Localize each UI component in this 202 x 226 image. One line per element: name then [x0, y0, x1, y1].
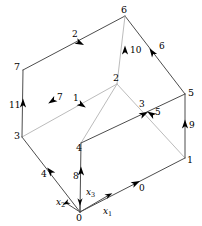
axis-label-x3: x3: [86, 188, 95, 197]
edge-line-7: [22, 84, 117, 137]
edge-label-7: 7: [57, 93, 63, 102]
arrow-heads: [20, 38, 188, 207]
edge-label-1: 1: [73, 94, 79, 103]
edge-label-5: 5: [155, 108, 161, 117]
edge-label-6: 6: [159, 42, 165, 51]
axis-line-x2: [66, 203, 80, 212]
vertex-label-1: 1: [187, 155, 193, 165]
edge-arrow-11: [20, 99, 26, 108]
vertex-label-7: 7: [14, 62, 20, 72]
edge-label-3: 3: [139, 100, 145, 109]
edge-label-11: 11: [9, 101, 20, 110]
edge-label-4: 4: [41, 170, 47, 179]
edge-label-9: 9: [189, 121, 195, 130]
vertex-label-5: 5: [188, 88, 194, 98]
edge-label-8: 8: [73, 172, 79, 181]
axis-label-subscript: 3: [91, 191, 95, 199]
axis-label-subscript: 1: [108, 210, 112, 218]
axis-label-x1: x1: [103, 207, 112, 216]
vertex-label-2: 2: [113, 73, 119, 83]
vertex-label-4: 4: [76, 143, 82, 153]
edge-arrow-7: [47, 96, 58, 106]
edge-line-2: [23, 16, 125, 70]
axis-label-x2: x2: [56, 198, 65, 207]
vertex-label-6: 6: [121, 5, 127, 15]
vertex-label-3: 3: [14, 131, 20, 141]
edge-label-0: 0: [139, 184, 145, 193]
vertex-label-0: 0: [76, 213, 82, 223]
edge-label-2: 2: [72, 30, 78, 39]
cube-diagram: 01234567 01234567891011 x1x2x3: [0, 0, 202, 226]
cube-graphics: [0, 0, 202, 226]
edge-line-6: [125, 16, 185, 94]
axis-label-subscript: 2: [61, 201, 65, 209]
edge-line-0: [80, 158, 185, 212]
edge-label-10: 10: [130, 46, 141, 55]
edge-arrow-10: [122, 46, 128, 55]
